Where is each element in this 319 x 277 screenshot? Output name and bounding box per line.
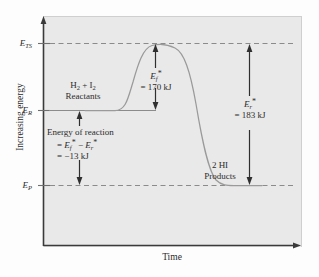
reverse-activation-value: = 183 kJ — [222, 110, 278, 121]
energy-of-reaction-line1: Energy of reaction — [47, 127, 157, 138]
y-tick-label-ep: EP — [2, 180, 32, 191]
reactants-label: H2 + I2 Reactants — [52, 80, 114, 102]
reverse-activation-symbol: Er* — [222, 97, 278, 110]
y-axis-title: Increasing energy — [15, 57, 25, 177]
energy-diagram-figure: ETS ER EP Increasing energy Time H2 + I2… — [0, 0, 319, 277]
products-formula: 2 HI — [196, 160, 244, 171]
forward-activation-energy-label: Ef* = 170 kJ — [128, 69, 184, 93]
energy-of-reaction-line3: = −13 kJ — [47, 151, 157, 162]
x-axis — [44, 243, 302, 249]
reactants-caption: Reactants — [52, 91, 114, 102]
x-axis-title: Time — [43, 252, 301, 262]
y-axis — [41, 16, 47, 246]
products-label: 2 HI Products — [196, 160, 244, 181]
y-tick-label-ets: ETS — [2, 38, 32, 49]
forward-activation-value: = 170 kJ — [128, 82, 184, 93]
reactants-formula: H2 + I2 — [52, 80, 114, 91]
energy-of-reaction-label: Energy of reaction = Ef* − Er* = −13 kJ — [47, 127, 157, 161]
forward-activation-symbol: Ef* — [128, 69, 184, 82]
energy-of-reaction-line2: = Ef* − Er* — [47, 138, 157, 151]
reverse-activation-energy-label: Er* = 183 kJ — [222, 97, 278, 121]
products-caption: Products — [196, 171, 244, 182]
